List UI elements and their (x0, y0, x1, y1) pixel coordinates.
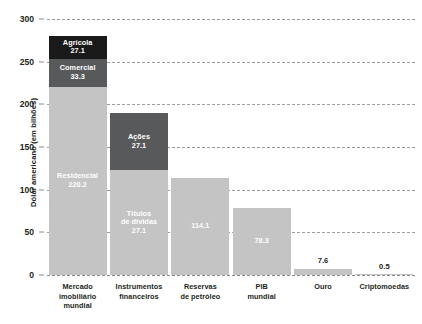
y-tick-label-50: 50 (0, 227, 34, 237)
category-label-line: Ouro (292, 282, 353, 292)
category-label-line: financeiros (108, 292, 169, 302)
category-label-line: imobiliário (47, 292, 108, 302)
bar-segment[interactable]: Residencial220.2 (49, 87, 107, 275)
bar-segment[interactable]: Ações27.1 (110, 113, 168, 171)
segment-value: 78.3 (254, 237, 268, 246)
bar-group[interactable]: 0.5 (355, 19, 413, 275)
category-label-line: de petróleo (170, 292, 231, 302)
y-tick-mark-100 (39, 189, 44, 190)
y-tick-label-100: 100 (0, 185, 34, 195)
category-label-line: PIB (231, 282, 292, 292)
bar-segment[interactable]: Títulosde dívidas27.1 (110, 170, 168, 275)
segment-value: 27.1 (132, 142, 146, 151)
bar-group[interactable]: 7.6 (294, 19, 352, 275)
bar-segment[interactable]: 114.1 (171, 178, 229, 275)
category-label: Criptomoedas (354, 282, 415, 292)
category-label-line: Criptomoedas (354, 282, 415, 292)
bar-group[interactable]: Títulosde dívidas27.1Ações27.1 (110, 19, 168, 275)
category-label-line: mundial (47, 301, 108, 311)
bar-group[interactable]: Residencial220.2Comercial33.3Agrícola27.… (49, 19, 107, 275)
category-label: Reservasde petróleo (170, 282, 231, 301)
y-tick-mark-250 (39, 61, 44, 62)
y-axis-title: Dólar americano (em bilhões) (29, 58, 38, 248)
category-label-line: Mercado (47, 282, 108, 292)
plot-area: Residencial220.2Comercial33.3Agrícola27.… (47, 19, 415, 275)
bar-segment[interactable] (355, 274, 413, 276)
bar-value-label: 0.5 (355, 262, 413, 271)
y-tick-label-300: 300 (0, 14, 34, 24)
bar-segment[interactable]: Comercial33.3 (49, 59, 107, 87)
category-label-line: Reservas (170, 282, 231, 292)
category-label: PIBmundial (231, 282, 292, 301)
category-label-line: Instrumentos (108, 282, 169, 292)
y-tick-label-250: 250 (0, 57, 34, 67)
y-tick-mark-50 (39, 232, 44, 233)
y-tick-label-150: 150 (0, 142, 34, 152)
segment-value: 220.2 (68, 181, 87, 190)
y-tick-mark-200 (39, 104, 44, 105)
y-tick-label-200: 200 (0, 99, 34, 109)
bar-group[interactable]: 78.3 (233, 19, 291, 275)
bar-segment[interactable]: 78.3 (233, 208, 291, 275)
bar-group[interactable]: 114.1 (171, 19, 229, 275)
category-label: Mercadoimobiliáriomundial (47, 282, 108, 311)
y-tick-mark-0 (39, 275, 44, 276)
bar-segment[interactable]: Agrícola27.1 (49, 36, 107, 59)
bar-segment[interactable] (294, 269, 352, 275)
category-label: Ouro (292, 282, 353, 292)
y-tick-label-0: 0 (0, 270, 34, 280)
category-label: Instrumentosfinanceiros (108, 282, 169, 301)
segment-value: 27.1 (70, 47, 84, 56)
y-tick-mark-150 (39, 147, 44, 148)
bar-value-label: 7.6 (294, 256, 352, 265)
gridline-0 (47, 275, 415, 276)
segment-value: 33.3 (70, 73, 84, 82)
segment-value: 114.1 (191, 222, 209, 231)
category-label-line: mundial (231, 292, 292, 302)
segment-value: 27.1 (132, 227, 146, 236)
y-tick-mark-300 (39, 19, 44, 20)
bar-chart: Dólar americano (em bilhões) 05010015020… (0, 0, 422, 324)
